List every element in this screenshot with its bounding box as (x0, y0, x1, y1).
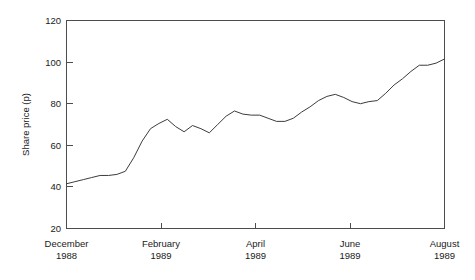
x-tick-label-december-year: 1988 (56, 250, 77, 261)
x-tick-label-december-month: December (45, 238, 89, 249)
x-tick-label-june-month: June (340, 238, 361, 249)
plot-frame (67, 21, 445, 229)
y-tick-label-120: 120 (45, 15, 61, 26)
x-axis-tick-labels: December 1988 February 1989 April 1989 J… (45, 238, 460, 261)
x-tick-label-august-month: August (430, 238, 460, 249)
x-axis-ticks (67, 223, 445, 229)
chart-canvas: 120 100 80 60 40 20 Share price (p) Dece… (0, 0, 475, 280)
x-tick-label-february-year: 1989 (150, 250, 171, 261)
data-line-share-price (67, 59, 445, 184)
x-tick-label-april-year: 1989 (245, 250, 266, 261)
y-tick-label-40: 40 (50, 181, 61, 192)
y-axis-ticks (67, 21, 73, 229)
x-tick-label-april-month: April (246, 238, 265, 249)
share-price-line-chart: 120 100 80 60 40 20 Share price (p) Dece… (0, 0, 475, 280)
y-tick-label-80: 80 (50, 98, 61, 109)
x-tick-label-june-year: 1989 (339, 250, 360, 261)
x-tick-label-august-year: 1989 (434, 250, 455, 261)
x-tick-label-february-month: February (142, 238, 180, 249)
y-axis-title: Share price (p) (20, 93, 31, 156)
y-tick-label-100: 100 (45, 57, 61, 68)
y-axis-tick-labels: 120 100 80 60 40 20 (45, 15, 61, 234)
y-tick-label-20: 20 (50, 223, 61, 234)
y-tick-label-60: 60 (50, 140, 61, 151)
